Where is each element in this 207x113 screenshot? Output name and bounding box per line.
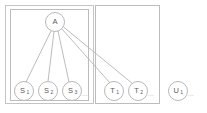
node-t1-subscript: 1 [116, 89, 119, 95]
node-s1-subscript: 1 [26, 89, 29, 95]
node-u1-label: U [174, 86, 179, 95]
tree-diagram: A S 1 S 2 S 3 ... T 1 T 2 ... U 1 ... [0, 0, 207, 113]
edge-a-s2 [48, 32, 54, 82]
node-s2-subscript: 2 [50, 89, 53, 95]
ellipsis-after-u1: ... [188, 91, 194, 97]
ellipsis-after-t2: ... [148, 91, 154, 97]
node-s2-label: S [44, 86, 49, 95]
edge-a-s1 [26, 31, 51, 82]
node-t1-label: T [110, 86, 115, 95]
edge-a-t1 [62, 29, 110, 83]
node-s3-subscript: 3 [74, 89, 77, 95]
node-a-label: A [52, 17, 57, 26]
node-t2-subscript: 2 [140, 89, 143, 95]
node-t2-label: T [134, 86, 139, 95]
node-s1-label: S [20, 86, 25, 95]
node-u1-subscript: 1 [180, 89, 183, 95]
edge-a-t2 [64, 27, 134, 84]
ellipsis-after-s3: ... [82, 91, 88, 97]
figure-canvas: A S 1 S 2 S 3 ... T 1 T 2 ... U 1 ... [0, 0, 207, 113]
node-s3-label: S [68, 86, 73, 95]
edge-a-s3 [58, 31, 69, 82]
